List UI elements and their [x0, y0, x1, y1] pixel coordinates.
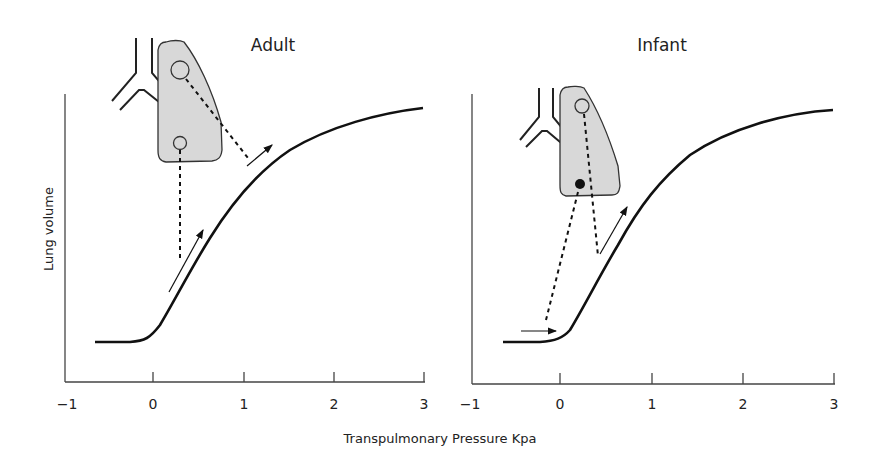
adult-xtick: −1	[57, 396, 78, 412]
infant-arrow-upper	[600, 207, 627, 254]
infant-panel: Infant −1 0 1 2 3	[460, 35, 839, 412]
adult-xtick: 0	[149, 396, 158, 412]
adult-lung-icon	[158, 41, 222, 163]
infant-xtick: −1	[460, 396, 481, 412]
infant-xtick: 2	[739, 396, 748, 412]
x-axis-label: Transpulmonary Pressure Kpa	[343, 431, 537, 446]
infant-apical-alveolus	[575, 99, 589, 113]
adult-xtick: 1	[240, 396, 249, 412]
adult-arrow-upper	[247, 145, 272, 166]
figure: Adult −1 0 1 2 3 Infant	[0, 0, 874, 466]
adult-title: Adult	[251, 35, 296, 55]
adult-apical-alveolus	[171, 61, 189, 79]
adult-basal-alveolus	[174, 137, 187, 150]
adult-xtick: 2	[330, 396, 339, 412]
infant-title: Infant	[637, 35, 687, 55]
infant-xtick: 1	[648, 396, 657, 412]
adult-arrow-lower	[169, 230, 203, 292]
adult-xtick: 3	[420, 396, 429, 412]
infant-closed-alveolus	[575, 179, 585, 189]
infant-xtick: 0	[556, 396, 565, 412]
y-axis-label: Lung volume	[41, 187, 56, 271]
infant-dashed-link-lower	[545, 192, 578, 324]
infant-compliance-curve	[503, 110, 833, 342]
adult-compliance-curve	[95, 108, 423, 342]
infant-xtick: 3	[830, 396, 839, 412]
adult-panel: Adult −1 0 1 2 3	[57, 35, 429, 412]
